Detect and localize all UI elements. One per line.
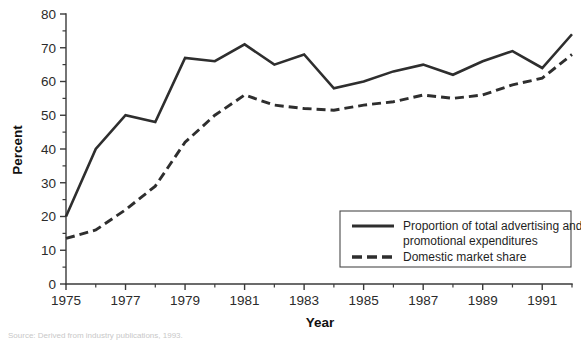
line-chart: 01020304050607080 1975197719791981198319… [0, 0, 581, 341]
x-axis-tick-labels: 197519771979198119831985198719891991 [51, 293, 557, 308]
legend-label-proportion-line1: Proportion of total advertising and [403, 219, 581, 233]
x-tick-label: 1991 [527, 293, 557, 308]
chart-figure: 01020304050607080 1975197719791981198319… [0, 0, 581, 341]
x-tick-label: 1977 [111, 293, 141, 308]
y-tick-label: 40 [41, 142, 56, 157]
y-tick-label: 70 [41, 41, 56, 56]
y-tick-label: 60 [41, 74, 56, 89]
x-tick-label: 1987 [408, 293, 438, 308]
y-tick-label: 30 [41, 176, 56, 191]
y-tick-label: 80 [41, 7, 56, 22]
y-tick-label: 10 [41, 243, 56, 258]
source-caption: Source: Derived from industry publicatio… [8, 331, 308, 341]
legend-label-proportion-line2: promotional expenditures [403, 234, 538, 248]
x-tick-label: 1975 [51, 293, 81, 308]
x-tick-label: 1979 [170, 293, 200, 308]
x-tick-label: 1989 [468, 293, 498, 308]
y-tick-label: 20 [41, 209, 56, 224]
y-tick-label: 50 [41, 108, 56, 123]
x-tick-label: 1983 [289, 293, 319, 308]
y-axis-tick-labels: 01020304050607080 [41, 7, 56, 292]
x-axis-title: Year [306, 315, 335, 330]
y-axis-title: Percent [10, 125, 25, 175]
x-tick-label: 1985 [349, 293, 379, 308]
legend-label-market-share: Domestic market share [403, 250, 527, 264]
y-tick-label: 0 [48, 277, 56, 292]
chart-legend: Proportion of total advertising and prom… [340, 211, 581, 267]
x-tick-label: 1981 [230, 293, 260, 308]
